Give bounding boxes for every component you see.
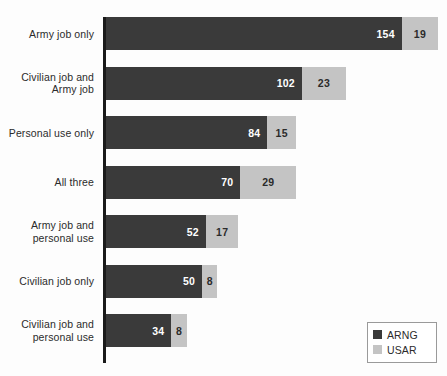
legend-item: USAR bbox=[373, 342, 431, 357]
chart-legend: ARNGUSAR bbox=[367, 322, 437, 363]
bar-segment-usar: 29 bbox=[240, 166, 296, 199]
bar-track: 10223 bbox=[106, 67, 346, 100]
category-label-line: Army job bbox=[0, 83, 94, 96]
bar-segment-usar: 23 bbox=[302, 67, 346, 100]
stacked-bar-chart: Army job only15419Civilian job andArmy j… bbox=[0, 0, 447, 376]
bar-value-label: 8 bbox=[202, 275, 217, 287]
category-label: Civilian job andArmy job bbox=[0, 71, 94, 96]
bar-segment-usar: 15 bbox=[267, 116, 296, 149]
bar-value-label: 8 bbox=[171, 325, 186, 337]
bar-segment-usar: 8 bbox=[202, 265, 217, 298]
category-label: Army job andpersonal use bbox=[0, 219, 94, 244]
bar-track: 348 bbox=[106, 314, 187, 347]
bar-segment-arng: 52 bbox=[106, 215, 206, 248]
bar-segment-arng: 70 bbox=[106, 166, 240, 199]
category-label-line: personal use bbox=[0, 232, 94, 245]
category-label-line: Civilian job only bbox=[0, 275, 94, 288]
category-label-line: Civilian job and bbox=[0, 71, 94, 84]
legend-item-label: USAR bbox=[387, 344, 417, 356]
bar-segment-arng: 154 bbox=[106, 17, 402, 50]
bar-track: 8415 bbox=[106, 116, 296, 149]
bar-row: Civilian job only508 bbox=[0, 265, 447, 298]
bar-value-label: 154 bbox=[377, 28, 402, 40]
bar-row: Personal use only8415 bbox=[0, 116, 447, 149]
category-label-line: Personal use only bbox=[0, 127, 94, 140]
category-label-line: All three bbox=[0, 176, 94, 189]
category-label-line: personal use bbox=[0, 331, 94, 344]
bar-segment-arng: 84 bbox=[106, 116, 267, 149]
bar-row: Civilian job andArmy job10223 bbox=[0, 67, 447, 100]
bar-row: All three7029 bbox=[0, 166, 447, 199]
bar-track: 5217 bbox=[106, 215, 238, 248]
category-label: Civilian job andpersonal use bbox=[0, 318, 94, 343]
legend-item: ARNG bbox=[373, 327, 431, 342]
bar-track: 508 bbox=[106, 265, 217, 298]
bar-value-label: 84 bbox=[248, 127, 267, 139]
category-label: Civilian job only bbox=[0, 275, 94, 288]
bar-segment-arng: 102 bbox=[106, 67, 302, 100]
bar-value-label: 70 bbox=[221, 176, 240, 188]
bar-value-label: 19 bbox=[402, 28, 438, 40]
bar-segment-arng: 34 bbox=[106, 314, 171, 347]
category-label-line: Civilian job and bbox=[0, 318, 94, 331]
bar-track: 7029 bbox=[106, 166, 296, 199]
square-filled-dark-icon bbox=[373, 330, 382, 339]
category-label: All three bbox=[0, 176, 94, 189]
bar-segment-usar: 8 bbox=[171, 314, 186, 347]
category-label: Personal use only bbox=[0, 127, 94, 140]
category-label-line: Army job only bbox=[0, 28, 94, 41]
bar-row: Army job andpersonal use5217 bbox=[0, 215, 447, 248]
bar-segment-arng: 50 bbox=[106, 265, 202, 298]
bar-value-label: 15 bbox=[267, 127, 296, 139]
category-label: Army job only bbox=[0, 28, 94, 41]
bar-segment-usar: 19 bbox=[402, 17, 438, 50]
bar-value-label: 52 bbox=[187, 226, 206, 238]
legend-item-label: ARNG bbox=[387, 329, 418, 341]
bar-row: Army job only15419 bbox=[0, 17, 447, 50]
bar-value-label: 17 bbox=[206, 226, 239, 238]
square-filled-light-icon bbox=[373, 345, 382, 354]
bar-value-label: 34 bbox=[152, 325, 171, 337]
bar-track: 15419 bbox=[106, 17, 438, 50]
plot-area: Army job only15419Civilian job andArmy j… bbox=[0, 0, 447, 376]
bar-value-label: 23 bbox=[302, 77, 346, 89]
bar-value-label: 50 bbox=[183, 275, 202, 287]
bar-value-label: 29 bbox=[240, 176, 296, 188]
bar-value-label: 102 bbox=[277, 77, 302, 89]
category-label-line: Army job and bbox=[0, 219, 94, 232]
bar-segment-usar: 17 bbox=[206, 215, 239, 248]
